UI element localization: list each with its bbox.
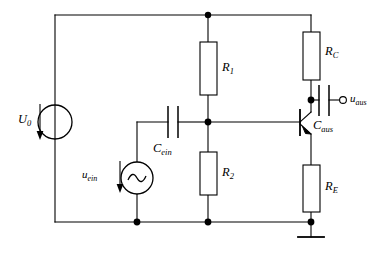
circuit-diagram: U0 uein uaus Cein Caus R1 R2 RC RE xyxy=(0,0,388,259)
label-re: RE xyxy=(325,180,338,193)
resistor-rc-body xyxy=(303,32,320,80)
source-uein-symbol xyxy=(121,162,153,194)
node-dot-base xyxy=(205,119,212,126)
label-cein: Cein xyxy=(153,142,172,155)
label-uaus: uaus xyxy=(350,93,367,104)
node-dot-re-ground xyxy=(308,219,315,226)
node-dot-uein-ground xyxy=(134,219,141,226)
node-dot-r2-ground xyxy=(205,219,212,226)
open-terminal-uaus[interactable] xyxy=(340,97,347,104)
wire-collector-diagonal xyxy=(300,112,311,122)
label-caus: Caus xyxy=(313,119,333,132)
label-r1: R1 xyxy=(222,61,234,74)
resistor-r2-body xyxy=(200,152,217,195)
label-r2: R2 xyxy=(222,166,234,179)
label-u0: U0 xyxy=(18,113,31,126)
junction-dots xyxy=(134,12,315,226)
source-u0-symbol xyxy=(38,105,72,139)
label-rc: RC xyxy=(325,45,338,58)
node-dot-top-rail xyxy=(205,12,211,18)
resistor-r1-body xyxy=(200,42,217,95)
resistor-re-body xyxy=(303,165,320,212)
label-uein: uein xyxy=(82,169,97,180)
node-dot-collector xyxy=(308,97,315,104)
transistor-emitter-arrow xyxy=(303,127,312,135)
